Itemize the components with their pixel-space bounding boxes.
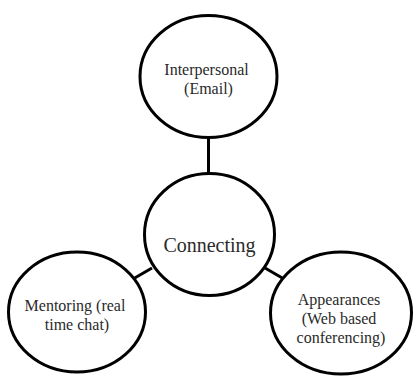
node-appearances: Appearances (Web based conferencing) [271,252,412,374]
node-label-line: Appearances [298,291,381,309]
edge-connecting-appearances [265,268,284,279]
center-label: Connecting [163,234,255,257]
svg-text:Connecting: Connecting [163,234,255,257]
node-label-line: time chat) [45,316,109,334]
diagram-canvas: Interpersonal (Email) Connecting Mentori… [0,0,420,383]
node-label-line: conferencing) [297,329,386,347]
node-label-line: Interpersonal [164,61,249,79]
node-mentoring: Mentoring (real time chat) [9,252,146,372]
node-label-line: (Email) [184,80,233,98]
edge-connecting-mentoring [133,268,152,279]
node-connecting: Connecting [145,174,275,296]
node-label-line: (Web based [302,310,377,328]
node-interpersonal: Interpersonal (Email) [140,16,277,138]
svg-text:Appearances (Web based: Appearances (Web based conferencing) [297,291,386,347]
node-label-line: Mentoring (real [25,297,126,315]
